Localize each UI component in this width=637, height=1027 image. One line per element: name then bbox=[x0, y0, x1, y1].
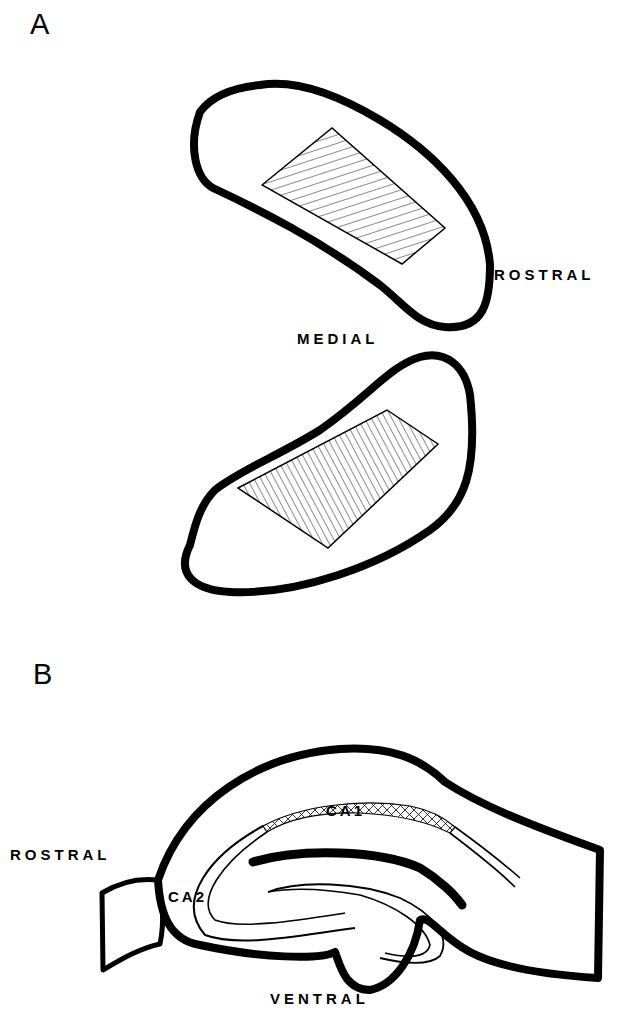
label-ventral-b: VENTRAL bbox=[270, 990, 369, 1007]
panel-b-hippocampus bbox=[102, 749, 600, 990]
label-ca2: CA2 bbox=[168, 888, 207, 905]
label-rostral-a: ROSTRAL bbox=[494, 266, 595, 283]
panel-label-a: A bbox=[30, 8, 49, 41]
panel-a-upper-slice bbox=[194, 84, 490, 327]
panel-a-lower-slice bbox=[185, 355, 472, 592]
label-rostral-b: ROSTRAL bbox=[10, 846, 111, 863]
figure-canvas bbox=[0, 0, 637, 1027]
panel-label-b: B bbox=[33, 658, 52, 691]
label-ca1: CA1 bbox=[326, 802, 365, 819]
label-medial-a: MEDIAL bbox=[297, 330, 379, 347]
